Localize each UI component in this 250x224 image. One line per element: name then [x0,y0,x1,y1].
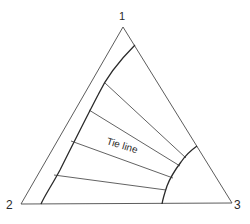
left-phase-boundary [41,45,135,204]
ternary-phase-diagram: 1 2 3 Tie line [0,0,250,224]
vertex-label-2: 2 [6,198,13,212]
tie-line [89,110,180,166]
vertex-label-1: 1 [119,10,125,22]
right-phase-boundary [162,146,197,204]
tie-line [54,175,166,190]
vertex-label-3: 3 [234,198,241,212]
